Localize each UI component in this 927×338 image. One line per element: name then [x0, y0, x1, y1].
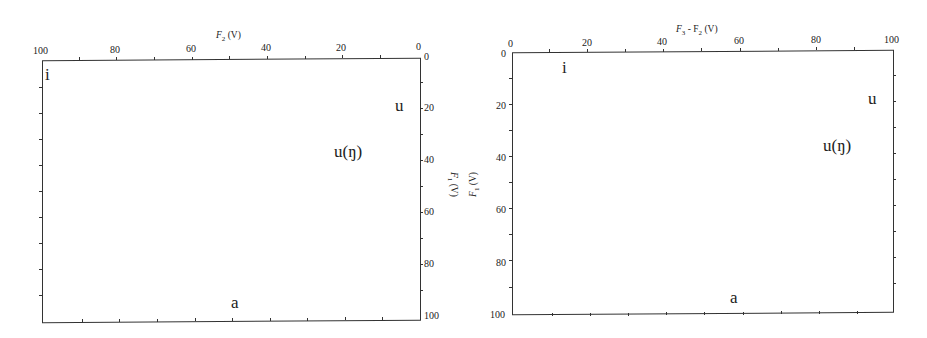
- tick-mark: [854, 47, 855, 50]
- tick-mark: [893, 231, 896, 232]
- tick-mark: [819, 311, 820, 314]
- right-y-tick: 20: [496, 101, 506, 111]
- right-y-tick: 60: [496, 205, 506, 215]
- right-y-tick: 40: [496, 153, 506, 163]
- right-plot-frame: [512, 50, 894, 315]
- tick-mark: [893, 179, 896, 180]
- right-y-axis-title: F1 (V): [468, 172, 481, 197]
- right-x-tick: 0: [508, 39, 513, 49]
- right-x-tick: 40: [657, 37, 667, 47]
- tick-mark: [781, 311, 782, 314]
- right-y-tick: 80: [496, 258, 506, 268]
- tick-mark: [893, 153, 896, 154]
- y-title-sub: 1: [473, 188, 481, 192]
- vowel-label-a: a: [730, 289, 738, 306]
- right-x-tick: 100: [884, 35, 899, 45]
- tick-mark: [857, 311, 858, 314]
- tick-mark: [893, 75, 896, 76]
- tick-mark: [743, 312, 744, 315]
- right-y-tick: 0: [501, 49, 506, 59]
- vowel-label-u-eng: u(ŋ): [823, 137, 851, 154]
- tick-mark: [625, 49, 626, 52]
- tick-mark: [701, 48, 702, 51]
- tick-mark: [893, 127, 896, 128]
- tick-mark: [509, 182, 512, 183]
- y-title-unit: (V): [468, 172, 478, 188]
- tick-mark: [509, 208, 512, 209]
- tick-mark: [549, 49, 550, 52]
- right-x-tick: 20: [582, 38, 592, 48]
- x-title-rest: - F: [685, 24, 698, 34]
- right-x-tick: 60: [734, 36, 744, 46]
- tick-mark: [509, 78, 512, 79]
- tick-mark: [587, 49, 588, 52]
- right-y-tick: 100: [490, 310, 505, 320]
- tick-mark: [552, 313, 553, 316]
- tick-mark: [778, 48, 779, 51]
- tick-mark: [509, 260, 512, 261]
- tick-mark: [509, 234, 512, 235]
- x-title-unit: (V): [702, 24, 718, 34]
- tick-mark: [893, 257, 896, 258]
- tick-mark: [628, 313, 629, 316]
- vowel-label-u: u: [868, 90, 877, 107]
- tick-mark: [509, 156, 512, 157]
- right-chart: F1 (V) F3 - F2 (V) 0 20 40 60 80 100 0 2…: [0, 0, 927, 338]
- tick-mark: [893, 205, 896, 206]
- tick-mark: [740, 48, 741, 51]
- tick-mark: [509, 104, 512, 105]
- vowel-label-i: i: [562, 59, 567, 76]
- tick-mark: [816, 47, 817, 50]
- tick-mark: [509, 287, 512, 288]
- tick-mark: [590, 313, 591, 316]
- tick-mark: [893, 283, 896, 284]
- tick-mark: [663, 49, 664, 52]
- tick-mark: [893, 101, 896, 102]
- right-x-axis-title: F3 - F2 (V): [676, 24, 718, 37]
- right-x-tick: 80: [811, 35, 821, 45]
- y-title-var: F: [468, 191, 478, 197]
- tick-mark: [666, 312, 667, 315]
- tick-mark: [509, 130, 512, 131]
- tick-mark: [704, 312, 705, 315]
